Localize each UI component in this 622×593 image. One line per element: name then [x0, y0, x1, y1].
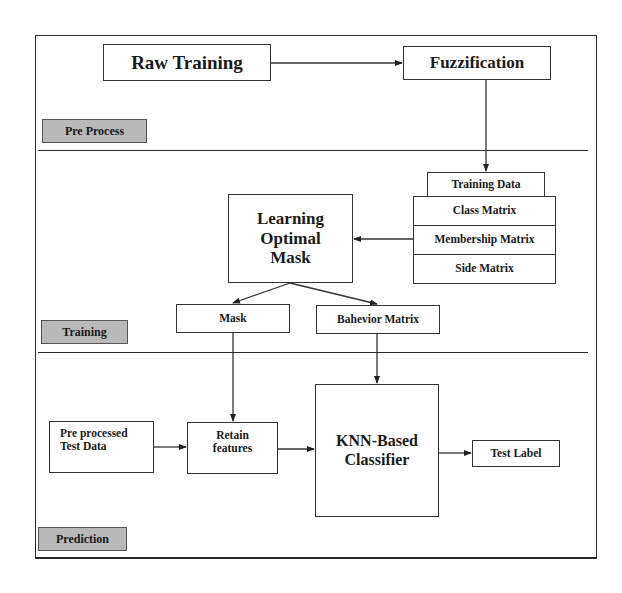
section-divider-preprocess [38, 150, 588, 151]
section-divider-training [38, 352, 588, 353]
node-membership-matrix: Membership Matrix [413, 225, 556, 255]
node-fuzzification: Fuzzification [403, 46, 551, 80]
node-test-label: Test Label [472, 440, 560, 467]
node-class-matrix: Class Matrix [413, 196, 556, 226]
node-learning-optimal-mask: Learning Optimal Mask [228, 194, 353, 283]
node-training-data: Training Data [427, 172, 545, 197]
node-raw-training: Raw Training [103, 44, 271, 81]
node-mask: Mask [176, 304, 290, 333]
node-knn-classifier: KNN-Based Classifier [315, 384, 439, 517]
stage-label-prediction: Prediction [38, 527, 127, 551]
stage-label-pre-process: Pre Process [42, 119, 147, 143]
node-retain-features: Retain features [187, 422, 278, 474]
stage-label-training: Training [41, 320, 128, 344]
node-side-matrix: Side Matrix [413, 254, 556, 284]
node-behavior-matrix: Bahevior Matrix [316, 305, 440, 334]
node-preprocessed-test-data: Pre processed Test Data [49, 421, 154, 473]
